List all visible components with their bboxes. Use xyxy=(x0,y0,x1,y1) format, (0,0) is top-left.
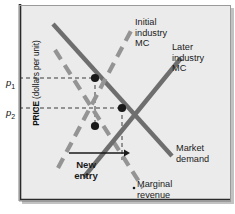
price-tick-p2: p2 xyxy=(6,107,15,120)
mc-mr-intersection-dot xyxy=(91,122,99,130)
new-entry-label-line2: entry xyxy=(66,170,106,181)
economics-diagram: PRICE (dollars per unit) p1 p2 Initial i… xyxy=(0,0,235,214)
y-axis-label-bold: PRICE xyxy=(31,101,41,126)
later-industry-mc-label-line1: Later xyxy=(172,42,204,53)
later-industry-mc-label-line3: MC xyxy=(172,63,204,74)
later-industry-mc-label-line2: industry xyxy=(172,53,204,64)
marginal-revenue-label: Marginal revenue xyxy=(137,179,172,200)
later-industry-mc-label: Later industry MC xyxy=(172,42,204,74)
equilibrium-dot-p2 xyxy=(118,104,126,112)
initial-industry-mc-label: Initial industry MC xyxy=(135,17,167,49)
marginal-revenue-label-line1: Marginal xyxy=(137,179,172,190)
new-entry-label: New entry xyxy=(66,159,106,181)
marginal-revenue-leader-dot xyxy=(133,187,136,190)
initial-industry-mc-label-line2: industry xyxy=(135,28,167,39)
initial-industry-mc-label-line1: Initial xyxy=(135,17,167,28)
y-axis-label-rest: (dollars per unit) xyxy=(31,40,41,101)
price-tick-p1-subscript: 1 xyxy=(11,83,15,90)
market-demand-label: Market demand xyxy=(176,143,209,164)
market-demand-label-line1: Market xyxy=(176,143,209,154)
market-demand-label-line2: demand xyxy=(176,154,209,165)
equilibrium-dot-p1 xyxy=(91,74,99,82)
new-entry-label-line1: New xyxy=(66,159,106,170)
price-tick-p2-subscript: 2 xyxy=(11,113,15,120)
marginal-revenue-label-line2: revenue xyxy=(137,190,172,201)
y-axis-label: PRICE (dollars per unit) xyxy=(31,23,41,143)
initial-industry-mc-label-line3: MC xyxy=(135,38,167,49)
price-tick-p1: p1 xyxy=(6,77,15,90)
